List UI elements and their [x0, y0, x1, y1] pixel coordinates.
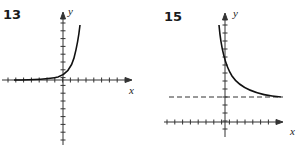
graphs: [0, 0, 298, 152]
graph-15: [164, 13, 283, 137]
curve-13: [14, 25, 80, 80]
curve-15: [219, 25, 281, 97]
graph-13: [2, 12, 132, 145]
